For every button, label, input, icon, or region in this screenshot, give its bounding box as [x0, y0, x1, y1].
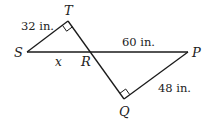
measure-st: 32 in. — [21, 19, 54, 33]
right-angle-marker-q — [120, 89, 130, 95]
measure-pq: 48 in. — [158, 81, 191, 95]
geometry-diagram: S T R P Q 32 in. x 60 in. 48 in. — [0, 0, 212, 124]
point-label-q: Q — [119, 104, 130, 119]
point-label-t: T — [64, 3, 74, 18]
point-label-p: P — [191, 45, 201, 60]
point-label-s: S — [14, 45, 23, 60]
segment-tq — [68, 21, 124, 99]
measure-sr: x — [55, 55, 62, 69]
point-label-r: R — [80, 54, 91, 69]
measure-rp: 60 in. — [122, 35, 155, 49]
